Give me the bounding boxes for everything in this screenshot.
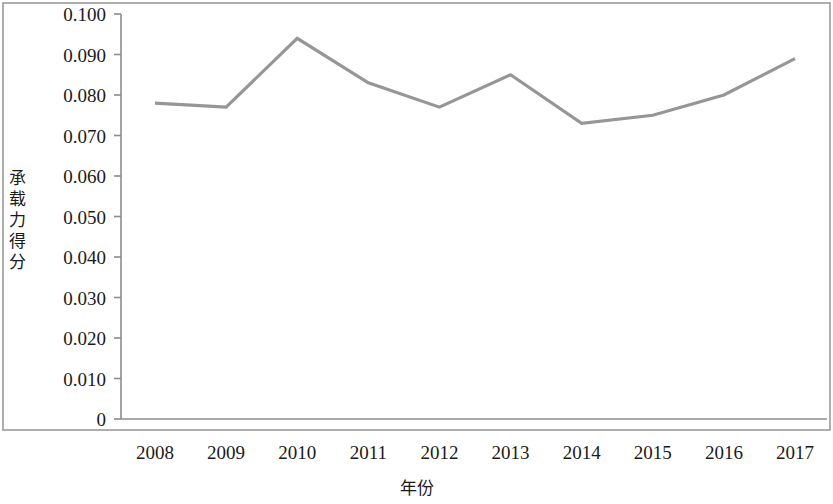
chart-frame (3, 3, 830, 430)
series-line (155, 38, 795, 123)
plot-border (3, 3, 830, 430)
data-series (155, 38, 795, 123)
line-chart: 承 载 力 得 分 00.0100.0200.0300.0400.0500.06… (0, 0, 833, 504)
axis-lines (121, 14, 827, 419)
axis-tick-marks (114, 14, 121, 419)
plot-area (0, 0, 833, 504)
